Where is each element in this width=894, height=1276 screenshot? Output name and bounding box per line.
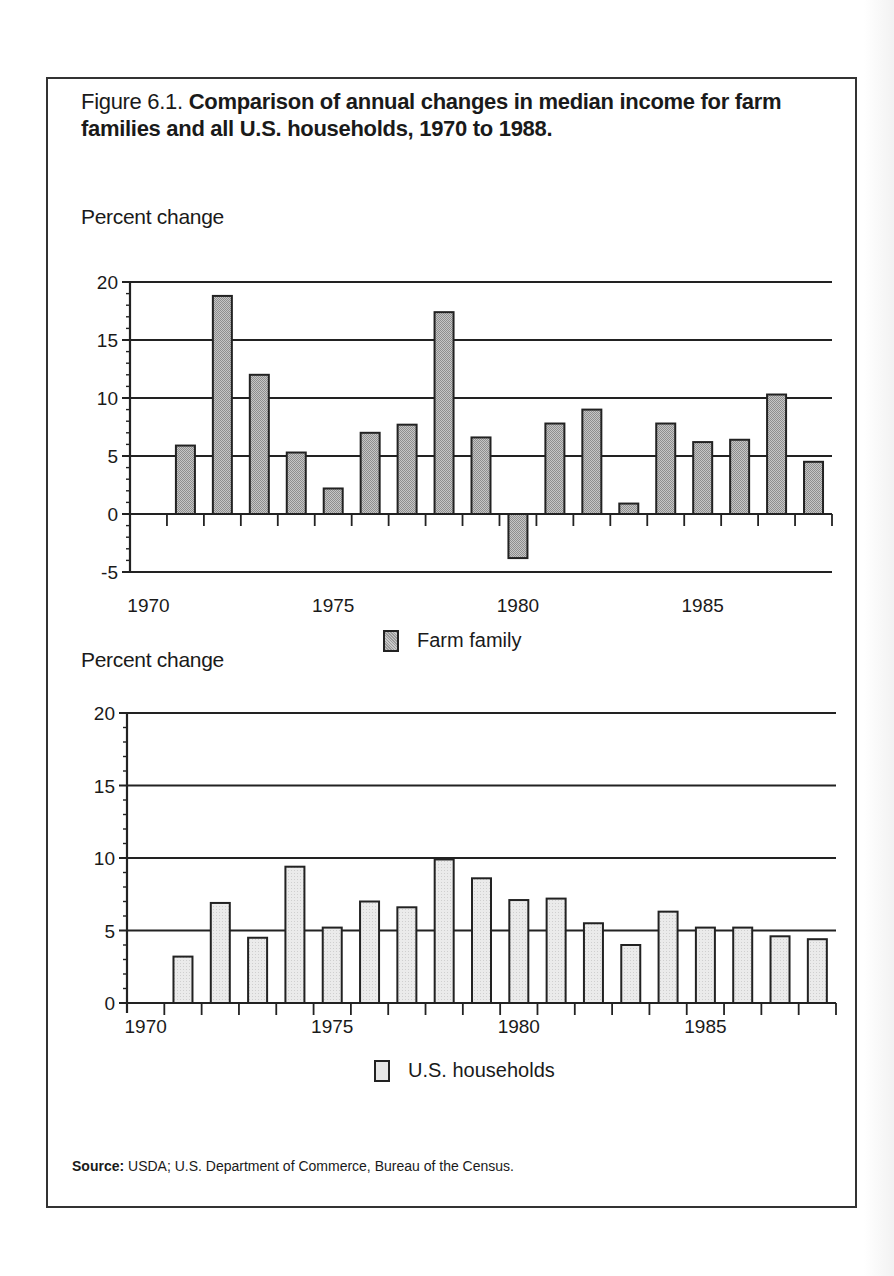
bar-1973 bbox=[250, 375, 269, 514]
x-tick-label: 1980 bbox=[497, 595, 539, 616]
bar-1971 bbox=[176, 446, 195, 514]
bar-1985 bbox=[693, 442, 712, 514]
bar-1984 bbox=[656, 424, 675, 514]
bar-1981 bbox=[547, 899, 566, 1003]
legend-swatch-us bbox=[374, 1060, 390, 1082]
bar-1982 bbox=[584, 923, 603, 1003]
y-tick-label: 5 bbox=[104, 921, 115, 942]
bar-1980 bbox=[508, 514, 527, 558]
farm-family-chart: -5051015201970197519801985 bbox=[97, 272, 832, 616]
bar-1977 bbox=[397, 907, 416, 1003]
bar-1986 bbox=[730, 440, 749, 514]
y-tick-label: 5 bbox=[107, 446, 118, 467]
bar-1978 bbox=[435, 312, 454, 514]
bar-1972 bbox=[213, 296, 232, 514]
x-tick-label: 1970 bbox=[127, 595, 169, 616]
y-tick-label: 15 bbox=[94, 776, 115, 797]
x-tick-label: 1970 bbox=[125, 1016, 167, 1037]
legend-farm-family: Farm family bbox=[383, 629, 521, 652]
bar-1984 bbox=[659, 912, 678, 1003]
y-tick-label: 10 bbox=[94, 848, 115, 869]
us-households-chart: 051015201970197519801985 bbox=[94, 703, 836, 1037]
source-note: Source: USDA; U.S. Department of Commerc… bbox=[72, 1158, 514, 1174]
y-tick-label: 0 bbox=[107, 504, 118, 525]
x-tick-label: 1975 bbox=[312, 595, 354, 616]
y-tick-label: -5 bbox=[101, 562, 118, 583]
bar-1979 bbox=[472, 437, 491, 514]
bar-1977 bbox=[398, 425, 417, 514]
y-tick-label: 0 bbox=[104, 993, 115, 1014]
bar-1974 bbox=[287, 453, 306, 514]
bar-1974 bbox=[285, 867, 304, 1003]
bar-1971 bbox=[173, 957, 192, 1003]
bar-1972 bbox=[211, 903, 230, 1003]
x-tick-label: 1985 bbox=[684, 1016, 726, 1037]
bar-1976 bbox=[360, 902, 379, 1004]
legend-swatch-farm bbox=[383, 630, 399, 652]
y-tick-label: 20 bbox=[94, 703, 115, 724]
bar-1986 bbox=[733, 928, 752, 1003]
y-tick-label: 10 bbox=[97, 388, 118, 409]
bar-1973 bbox=[248, 938, 267, 1003]
bar-1975 bbox=[323, 928, 342, 1003]
y-tick-label: 15 bbox=[97, 330, 118, 351]
x-tick-label: 1985 bbox=[682, 595, 724, 616]
source-text: USDA; U.S. Department of Commerce, Burea… bbox=[128, 1158, 514, 1174]
bar-1988 bbox=[808, 939, 827, 1003]
bar-1987 bbox=[767, 395, 786, 514]
bar-1982 bbox=[582, 410, 601, 514]
x-tick-label: 1980 bbox=[498, 1016, 540, 1037]
bar-1978 bbox=[435, 859, 454, 1003]
x-tick-label: 1975 bbox=[311, 1016, 353, 1037]
bar-1983 bbox=[619, 504, 638, 514]
bar-1979 bbox=[472, 878, 491, 1003]
source-label: Source: bbox=[72, 1158, 124, 1174]
bar-1976 bbox=[361, 433, 380, 514]
y-tick-label: 20 bbox=[97, 272, 118, 293]
bar-1987 bbox=[771, 936, 790, 1003]
legend-label-us: U.S. households bbox=[408, 1059, 555, 1082]
legend-us-households: U.S. households bbox=[374, 1059, 555, 1082]
bar-1988 bbox=[804, 462, 823, 514]
bar-1975 bbox=[324, 488, 343, 514]
bar-1980 bbox=[509, 900, 528, 1003]
bar-1981 bbox=[545, 424, 564, 514]
bar-1985 bbox=[696, 928, 715, 1003]
legend-label-farm: Farm family bbox=[417, 629, 521, 652]
bar-1983 bbox=[621, 945, 640, 1003]
